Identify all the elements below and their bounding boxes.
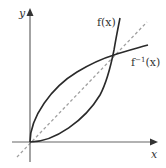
identity-line (17, 22, 147, 157)
curve-f-inverse-label: f−1(x) (131, 56, 160, 69)
curve-f-label: f(x) (97, 16, 116, 29)
curve-f (30, 18, 120, 142)
y-axis-label: y (18, 7, 26, 20)
x-axis-label: x (151, 148, 158, 161)
inverse-superscript: −1 (135, 56, 145, 64)
y-axis-arrow-icon (27, 8, 34, 16)
function-inverse-diagram: y x f(x) f−1(x) (0, 0, 166, 168)
x-axis-arrow-icon (150, 139, 158, 146)
